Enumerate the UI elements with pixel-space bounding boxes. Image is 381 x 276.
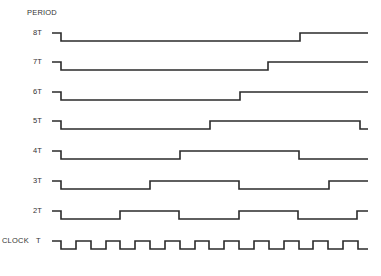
waveform-7t (52, 62, 368, 70)
timing-diagram (0, 0, 381, 276)
waveform-8t (52, 33, 368, 41)
waveform-6t (52, 92, 368, 100)
waveform-2t (52, 211, 368, 219)
waveform-4t (52, 151, 368, 159)
waveform-t (52, 241, 368, 249)
waveform-5t (52, 121, 368, 129)
waveform-3t (52, 181, 368, 189)
